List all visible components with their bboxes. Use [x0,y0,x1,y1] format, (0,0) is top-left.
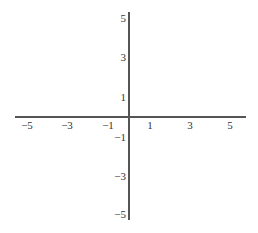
y-tick-label: −1 [114,131,126,143]
y-tick-label: 1 [121,91,127,103]
x-tick-label: −5 [21,119,33,131]
x-tick-label: 5 [227,119,233,131]
y-tick-label: 5 [121,12,127,24]
x-tick-label: −3 [61,119,73,131]
y-tick-label: −5 [114,208,126,220]
y-tick-label: −3 [114,170,126,182]
x-tick-label: −1 [102,119,114,131]
x-tick-label: 3 [187,119,193,131]
y-tick-label: 3 [121,51,127,63]
x-tick-label: 1 [147,119,153,131]
x-tick-labels: −5 −3 −1 1 3 5 [21,119,233,131]
coordinate-plane: −5 −3 −1 1 3 5 5 3 1 −1 −3 −5 [0,0,258,233]
